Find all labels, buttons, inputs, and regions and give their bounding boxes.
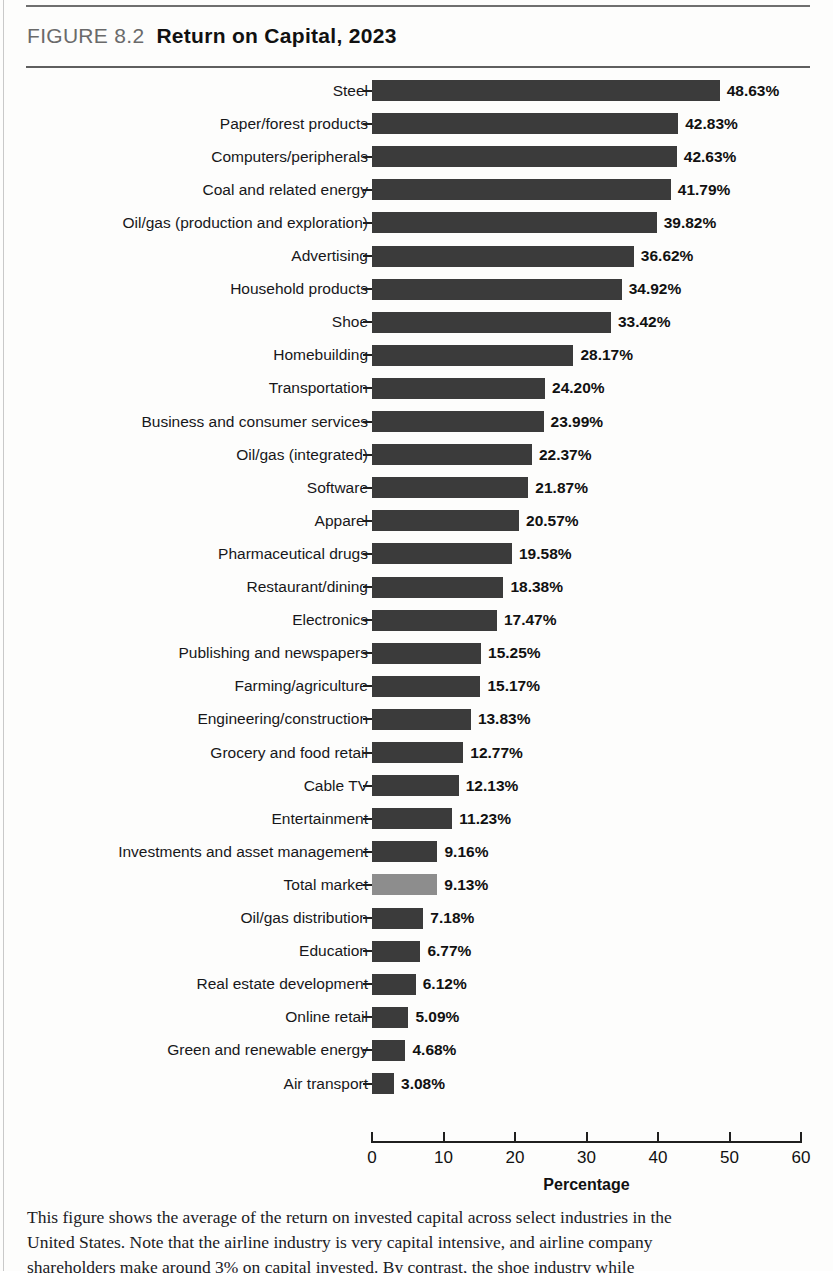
bar-highlighted <box>372 874 437 895</box>
y-axis-tick <box>363 156 372 158</box>
header-rule-bottom <box>26 66 810 68</box>
category-label: Oil/gas (production and exploration) <box>122 215 368 231</box>
x-axis-tick <box>800 1132 802 1143</box>
bar <box>372 577 503 598</box>
bar <box>372 543 512 564</box>
category-label: Oil/gas (integrated) <box>236 447 368 463</box>
bar-row: Farming/agriculture15.17% <box>0 676 833 697</box>
y-axis-tick <box>363 1083 372 1085</box>
bar-row: Apparel20.57% <box>0 510 833 531</box>
y-axis-tick <box>363 851 372 853</box>
bar <box>372 113 678 134</box>
category-label: Apparel <box>315 513 368 529</box>
category-label: Computers/peripherals <box>211 149 368 165</box>
x-axis-tick-label: 30 <box>577 1148 596 1168</box>
bar-value-label: 7.18% <box>430 909 474 927</box>
bar <box>372 908 423 929</box>
y-axis-tick <box>363 387 372 389</box>
y-axis-tick <box>363 619 372 621</box>
y-axis-tick <box>363 255 372 257</box>
category-label: Pharmaceutical drugs <box>218 546 368 562</box>
bar <box>372 179 671 200</box>
bar-row: Publishing and newspapers15.25% <box>0 643 833 664</box>
category-label: Business and consumer services <box>141 414 368 430</box>
x-axis-tick-label: 60 <box>792 1148 811 1168</box>
bar <box>372 510 519 531</box>
y-axis-tick <box>363 321 372 323</box>
bar-value-label: 15.25% <box>488 644 541 662</box>
category-label: Real estate development <box>197 976 368 992</box>
bar-row: Entertainment11.23% <box>0 808 833 829</box>
bar-row: Business and consumer services23.99% <box>0 411 833 432</box>
bar-value-label: 6.12% <box>423 975 467 993</box>
bar-value-label: 22.37% <box>539 446 592 464</box>
bar <box>372 411 544 432</box>
bar <box>372 246 634 267</box>
bar-row: Oil/gas distribution7.18% <box>0 908 833 929</box>
bar-value-label: 42.83% <box>685 115 738 133</box>
y-axis-tick <box>363 454 372 456</box>
category-label: Paper/forest products <box>220 116 368 132</box>
bar-value-label: 19.58% <box>519 545 572 563</box>
bar <box>372 1073 394 1094</box>
category-label: Engineering/construction <box>197 712 368 728</box>
bar <box>372 974 416 995</box>
bar-row: Transportation24.20% <box>0 378 833 399</box>
bar-row: Coal and related energy41.79% <box>0 179 833 200</box>
bar-value-label: 36.62% <box>641 247 694 265</box>
category-label: Publishing and newspapers <box>178 645 368 661</box>
bar <box>372 444 532 465</box>
bar-row: Computers/peripherals42.63% <box>0 146 833 167</box>
y-axis-tick <box>363 818 372 820</box>
y-axis-tick <box>363 785 372 787</box>
bar-value-label: 39.82% <box>664 214 717 232</box>
bar-row: Engineering/construction13.83% <box>0 709 833 730</box>
bar-value-label: 42.63% <box>684 148 737 166</box>
bar-value-label: 9.16% <box>444 843 488 861</box>
bar <box>372 312 611 333</box>
y-axis-tick <box>363 189 372 191</box>
bar <box>372 775 459 796</box>
x-axis-tick-label: 0 <box>367 1148 376 1168</box>
bar-row: Household products34.92% <box>0 279 833 300</box>
bar-row: Air transport3.08% <box>0 1073 833 1094</box>
bar-value-label: 15.17% <box>487 677 540 695</box>
category-label: Electronics <box>292 612 368 628</box>
y-axis-tick <box>363 288 372 290</box>
bar-value-label: 5.09% <box>415 1008 459 1026</box>
bar <box>372 345 573 366</box>
x-axis-tick <box>371 1132 373 1143</box>
bar-chart: Steel48.63%Paper/forest products42.83%Co… <box>0 72 833 1182</box>
y-axis-tick <box>363 884 372 886</box>
bar <box>372 709 471 730</box>
category-label: Restaurant/dining <box>247 579 369 595</box>
category-label: Entertainment <box>272 811 369 827</box>
bar <box>372 1007 408 1028</box>
bar-row: Paper/forest products42.83% <box>0 113 833 134</box>
y-axis-tick <box>363 1049 372 1051</box>
bar-value-label: 4.68% <box>412 1041 456 1059</box>
bar <box>372 676 480 697</box>
x-axis-tick-label: 10 <box>434 1148 453 1168</box>
y-axis-tick <box>363 421 372 423</box>
bar-row: Restaurant/dining18.38% <box>0 577 833 598</box>
y-axis-tick <box>363 652 372 654</box>
bar-row: Oil/gas (integrated)22.37% <box>0 444 833 465</box>
bar-value-label: 48.63% <box>727 82 780 100</box>
y-axis-tick <box>363 917 372 919</box>
category-label: Household products <box>230 281 368 297</box>
bar-row: Oil/gas (production and exploration)39.8… <box>0 212 833 233</box>
caption-line-1: This figure shows the average of the ret… <box>27 1205 817 1230</box>
bar-value-label: 34.92% <box>629 280 682 298</box>
bar-row: Pharmaceutical drugs19.58% <box>0 543 833 564</box>
category-label: Air transport <box>284 1076 368 1092</box>
category-label: Transportation <box>269 381 368 397</box>
y-axis-tick <box>363 1016 372 1018</box>
bar-row: Grocery and food retail12.77% <box>0 742 833 763</box>
bar <box>372 808 452 829</box>
category-label: Software <box>307 480 368 496</box>
bar <box>372 80 720 101</box>
y-axis-tick <box>363 354 372 356</box>
y-axis-tick <box>363 520 372 522</box>
bar-value-label: 6.77% <box>427 942 471 960</box>
